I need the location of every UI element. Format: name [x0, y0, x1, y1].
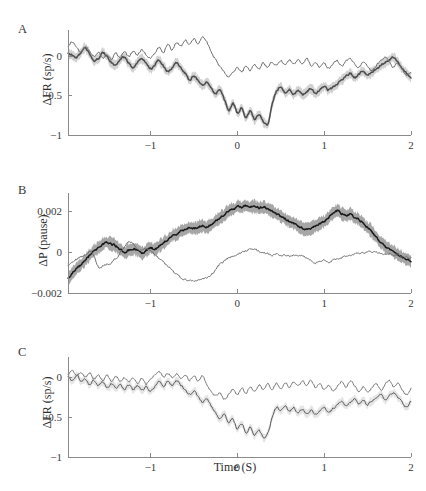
svg-text:1: 1: [321, 297, 327, 309]
svg-text:−1: −1: [145, 139, 157, 151]
svg-text:0: 0: [235, 297, 241, 309]
svg-text:−1: −1: [50, 451, 62, 463]
svg-text:−1: −1: [145, 461, 157, 473]
svg-text:1: 1: [321, 139, 327, 151]
svg-text:2: 2: [408, 461, 414, 473]
svg-text:−1: −1: [145, 297, 157, 309]
panel-c: C ΔFR (sp/s) 0−0.5−1−1012 Time (S): [0, 327, 426, 491]
svg-text:1: 1: [321, 461, 327, 473]
svg-text:−0.002: −0.002: [31, 287, 62, 299]
panel-b-plot: 0.0020−0.002−1012: [0, 165, 426, 327]
svg-text:2: 2: [408, 297, 414, 309]
svg-text:0.002: 0.002: [37, 205, 62, 217]
svg-text:−0.5: −0.5: [42, 89, 62, 101]
panel-a-plot: 0−0.5−1−1012: [0, 0, 426, 165]
panel-b: B ΔP (pause) 0.0020−0.002−1012: [0, 165, 426, 327]
figure-root: A ΔFR (sp/s) 0−0.5−1−1012 B ΔP (pause) 0…: [0, 0, 426, 491]
svg-text:2: 2: [408, 139, 414, 151]
panel-a: A ΔFR (sp/s) 0−0.5−1−1012: [0, 0, 426, 165]
figure-xlabel: Time (S): [190, 460, 280, 475]
svg-text:0: 0: [235, 139, 241, 151]
svg-text:−0.5: −0.5: [42, 411, 62, 423]
svg-text:−1: −1: [50, 129, 62, 141]
svg-text:0: 0: [57, 371, 63, 383]
svg-text:0: 0: [57, 50, 63, 62]
svg-text:0: 0: [57, 246, 63, 258]
